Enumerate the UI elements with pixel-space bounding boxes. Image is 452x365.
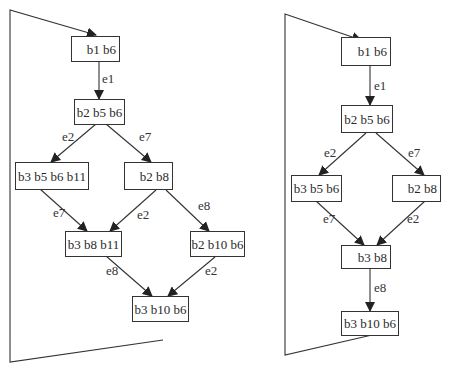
node-b3-b10-b6: b3 b10 b6 xyxy=(132,296,189,322)
node-b3-b8: b3 b8 xyxy=(341,245,391,269)
edge-label-e1: e1 xyxy=(102,72,114,85)
node-b2-b8: b2 b8 xyxy=(124,162,173,190)
edge-label-e2: e2 xyxy=(137,208,149,221)
edge-label-e7: e7 xyxy=(139,130,151,143)
edge-label-e2: e2 xyxy=(205,264,217,277)
node-b3-b5-b6-b11: b3 b5 b6 b11 xyxy=(15,162,89,190)
edge-label-e7: e7 xyxy=(408,146,420,159)
edge-label-e8: e8 xyxy=(198,199,210,212)
node-b2-b8: b2 b8 xyxy=(392,175,441,202)
edge-label-e7: e7 xyxy=(323,212,335,225)
edge-label-e8: e8 xyxy=(374,281,386,294)
node-b1-b6: b1 b6 xyxy=(71,36,120,62)
edge-label-e2: e2 xyxy=(62,130,74,143)
edge-label-e1: e1 xyxy=(374,79,386,92)
edge-label-e8: e8 xyxy=(106,264,118,277)
node-b2-b5-b6: b2 b5 b6 xyxy=(74,99,125,125)
node-b3-b5-b6: b3 b5 b6 xyxy=(291,175,342,202)
edge-label-e2: e2 xyxy=(324,146,336,159)
node-b2-b5-b6: b2 b5 b6 xyxy=(341,105,393,133)
node-b2-b10-b6: b2 b10 b6 xyxy=(190,231,245,257)
node-b1-b6: b1 b6 xyxy=(341,37,391,66)
edge-label-e2: e2 xyxy=(407,212,419,225)
edge-label-e7: e7 xyxy=(53,206,65,219)
node-b3-b10-b6: b3 b10 b6 xyxy=(341,311,399,336)
node-b3-b8-b11: b3 b8 b11 xyxy=(65,231,122,257)
